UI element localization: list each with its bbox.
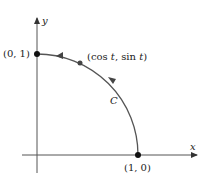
point-label-1-0: (1, 0): [124, 163, 151, 173]
direction-arrow-icon: [108, 77, 116, 84]
curve-label: C: [110, 96, 118, 106]
moving-point: [78, 61, 83, 66]
moving-point-label: (cos t, sin t): [87, 52, 147, 62]
y-axis-label: y: [42, 16, 48, 26]
direction-arrow-icon: [56, 52, 63, 59]
point-0-1: [34, 51, 40, 57]
curve-c: [37, 54, 138, 155]
diagram-canvas: [0, 0, 206, 189]
point-1-0: [135, 152, 141, 158]
x-axis-label: x: [190, 142, 196, 152]
point-label-0-1: (0, 1): [3, 49, 30, 59]
